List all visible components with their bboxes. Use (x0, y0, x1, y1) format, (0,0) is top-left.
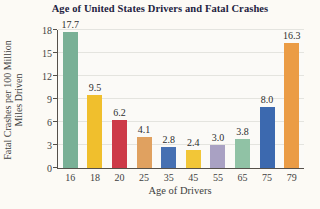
y-tick-mark (53, 98, 57, 99)
bar-value-label: 3.8 (227, 126, 259, 137)
bar (137, 137, 152, 168)
y-tick-mark (53, 121, 57, 122)
bar (210, 145, 225, 168)
y-tick-mark (53, 75, 57, 76)
chart-title: Age of United States Drivers and Fatal C… (0, 3, 320, 14)
x-tick-label: 45 (181, 172, 205, 183)
x-axis-title: Age of Drivers (57, 185, 303, 196)
y-tick-label: 12 (30, 71, 52, 82)
bar-value-label: 16.3 (276, 30, 308, 41)
y-axis-label-line-1: Fatal Crashes per 100 Million (2, 24, 13, 176)
y-tick-mark (53, 167, 57, 168)
bar (235, 139, 250, 168)
x-tick-label: 18 (83, 172, 107, 183)
y-tick-label: 15 (30, 48, 52, 59)
x-tick-label: 55 (206, 172, 230, 183)
plot-area: 036912151817.7169.5186.2204.1252.8352.44… (57, 30, 304, 169)
bar (186, 150, 201, 168)
bar (112, 120, 127, 168)
bar (63, 32, 78, 168)
x-tick-label: 75 (255, 172, 279, 183)
x-tick-label: 16 (58, 172, 82, 183)
y-tick-mark (53, 144, 57, 145)
x-tick-label: 20 (108, 172, 132, 183)
bar-value-label: 8.0 (251, 94, 283, 105)
bar (87, 95, 102, 168)
gridline (58, 52, 304, 53)
y-tick-label: 18 (30, 25, 52, 36)
x-tick-label: 65 (231, 172, 255, 183)
gridline (58, 29, 304, 30)
y-tick-label: 0 (30, 163, 52, 174)
y-tick-label: 3 (30, 140, 52, 151)
bar (284, 43, 299, 168)
y-axis-label-line-2: Miles Driven (13, 24, 24, 176)
x-tick-label: 25 (132, 172, 156, 183)
y-tick-label: 6 (30, 117, 52, 128)
bar-value-label: 9.5 (79, 82, 111, 93)
bar (161, 147, 176, 168)
bar (260, 107, 275, 168)
x-tick-label: 35 (157, 172, 181, 183)
gridline (58, 75, 304, 76)
bar-chart: Age of United States Drivers and Fatal C… (0, 0, 320, 209)
x-tick-label: 79 (280, 172, 304, 183)
y-axis-label: Fatal Crashes per 100 Million Miles Driv… (2, 24, 26, 176)
bar-value-label: 6.2 (104, 107, 136, 118)
bar-value-label: 17.7 (54, 19, 86, 30)
y-tick-label: 9 (30, 94, 52, 105)
y-tick-mark (53, 52, 57, 53)
